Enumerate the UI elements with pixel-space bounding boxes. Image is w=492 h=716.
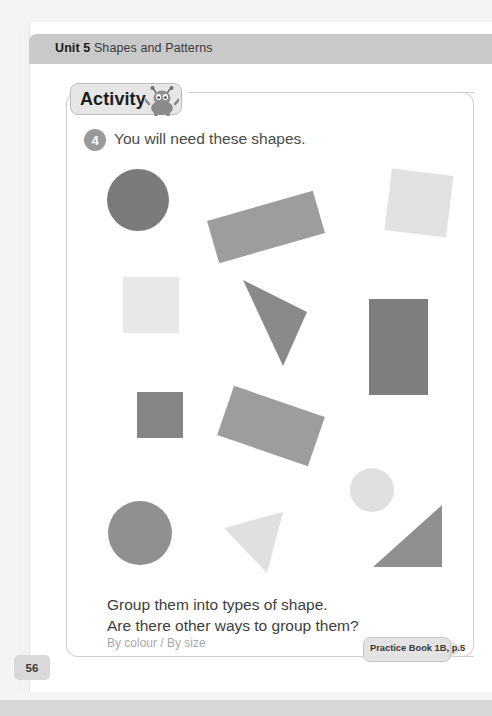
- question-number-badge: 4: [84, 129, 106, 151]
- unit-header-text: Unit 5 Shapes and Patterns: [55, 41, 213, 55]
- prompt-line-1: Group them into types of shape.: [107, 594, 359, 615]
- practice-book-tab[interactable]: Practice Book 1B, p.5: [363, 637, 466, 662]
- page-number-badge: 56: [14, 655, 50, 680]
- activity-badge: Activity: [70, 83, 182, 115]
- page-binding-line: [29, 22, 30, 692]
- page-footer-bar: [0, 700, 492, 716]
- prompt-answer-text: By colour / By size: [107, 636, 206, 650]
- activity-panel: [66, 92, 474, 657]
- prompt-text: Group them into types of shape. Are ther…: [107, 594, 359, 636]
- activity-panel-right-edge: [462, 92, 474, 657]
- alien-mascot-icon: [145, 86, 179, 116]
- question-text: You will need these shapes.: [114, 130, 306, 148]
- page-binding-strip: [18, 22, 29, 692]
- page-root: Unit 5 Shapes and Patterns Activity 4 Yo…: [0, 0, 492, 716]
- unit-title: Shapes and Patterns: [94, 41, 213, 55]
- practice-book-label: Practice Book 1B, p.5: [370, 643, 465, 653]
- unit-label: Unit 5: [55, 41, 90, 55]
- activity-badge-label: Activity: [80, 89, 146, 110]
- prompt-line-2: Are there other ways to group them?: [107, 615, 359, 636]
